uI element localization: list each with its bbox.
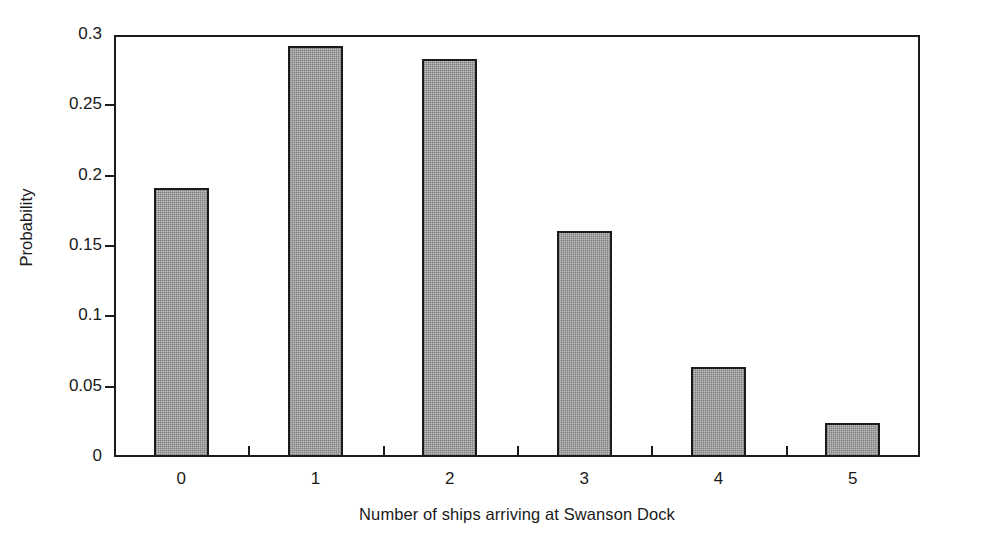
x-axis-tick-mark [786,446,788,457]
x-axis-tick-label: 5 [848,469,857,489]
x-axis-tick-mark [517,446,519,457]
x-axis-tick-mark [383,446,385,457]
bar-0 [154,188,209,457]
x-axis-tick-group: 012345 [114,457,920,503]
x-axis-tick-label: 0 [176,469,185,489]
x-axis-tick-label: 1 [311,469,320,489]
y-axis-tick-mark [105,175,114,177]
bar-5 [825,423,880,457]
y-axis-tick-label: 0.05 [69,376,102,396]
y-axis-tick-label: 0.1 [78,305,102,325]
y-axis-tick-mark [105,315,114,317]
x-axis-tick-label: 4 [714,469,723,489]
x-axis-tick-label: 3 [579,469,588,489]
x-axis-tick-label: 2 [445,469,454,489]
bar-chart-figure: Probability 0.30.250.20.150.10.050 01234… [0,0,984,554]
y-axis-tick-mark [105,245,114,247]
bar-1 [288,46,343,457]
y-axis-tick-mark [105,104,114,106]
y-axis-tick-label: 0.25 [69,94,102,114]
x-axis-tick-mark [651,446,653,457]
y-axis-tick-label: 0 [93,446,102,466]
y-axis-tick-mark [105,386,114,388]
bar-2 [422,59,477,457]
bar-4 [691,367,746,457]
x-axis-tick-mark [248,446,250,457]
x-axis-title: Number of ships arriving at Swanson Dock [114,505,920,524]
y-axis-tick-label: 0.15 [69,235,102,255]
y-axis-tick-label: 0.2 [78,165,102,185]
y-axis-tick-label: 0.3 [78,24,102,44]
bar-3 [557,231,612,457]
y-axis-tick-group: 0.30.250.20.150.10.050 [0,35,114,457]
bar-group [114,35,920,457]
